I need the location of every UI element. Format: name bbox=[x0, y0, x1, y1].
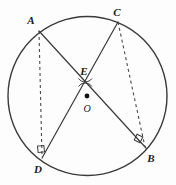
right-angle-at-d-icon bbox=[37, 145, 44, 152]
vertex-label-b: B bbox=[147, 153, 155, 164]
center-label-o: O bbox=[83, 104, 90, 114]
right-angle-at-b-icon bbox=[134, 134, 143, 143]
vertex-label-d: D bbox=[34, 164, 42, 175]
segment-cb-dashed bbox=[118, 22, 145, 147]
center-point-o-dot bbox=[85, 94, 90, 99]
chord-cd bbox=[42, 22, 118, 158]
chord-ab bbox=[39, 31, 146, 148]
vertex-label-e: E bbox=[80, 66, 88, 77]
vertex-label-c: C bbox=[113, 7, 121, 18]
segment-ad-dashed bbox=[39, 31, 42, 157]
geometry-figure: A C E O D B bbox=[0, 0, 176, 185]
vertex-label-a: A bbox=[27, 15, 35, 26]
